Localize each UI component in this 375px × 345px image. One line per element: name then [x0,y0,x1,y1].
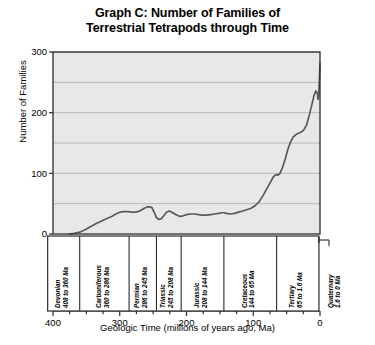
svg-text:Triassic: Triassic [159,284,166,308]
x-axis-ticks: 4003002001000 [45,311,323,328]
svg-text:300: 300 [112,317,128,328]
svg-text:Cretaceous: Cretaceous [241,273,248,308]
svg-text:300: 300 [31,46,47,57]
geologic-period-bands: Devonian408 to 360 MaCarboniferous360 to… [48,236,342,311]
svg-text:286 to 245 Ma: 286 to 245 Ma [141,267,148,309]
svg-text:200: 200 [179,317,195,328]
chart-canvas: 0100200300 4003002001000 Devonian408 to … [0,0,375,345]
chart-figure: Graph C: Number of Families of Terrestri… [0,0,375,345]
svg-text:400: 400 [45,317,61,328]
svg-text:144 to 65 Ma: 144 to 65 Ma [248,270,255,308]
svg-text:0: 0 [42,228,47,239]
svg-text:360 to 286 Ma: 360 to 286 Ma [103,267,110,308]
svg-text:200: 200 [31,107,47,118]
svg-text:0: 0 [317,317,322,328]
svg-text:100: 100 [245,317,261,328]
svg-text:65 to 1.6 Ma: 65 to 1.6 Ma [296,272,303,308]
y-axis-ticks: 0100200300 [31,46,53,239]
svg-text:Permian: Permian [133,283,140,308]
svg-text:1.6 to 0 Ma: 1.6 to 0 Ma [334,275,341,308]
svg-text:408 to 360 Ma: 408 to 360 Ma [62,267,69,309]
svg-text:245 to 208 Ma: 245 to 208 Ma [167,267,174,309]
svg-text:Jurassic: Jurassic [193,282,200,308]
svg-text:208 to 144 Ma: 208 to 144 Ma [201,267,208,309]
svg-text:100: 100 [31,168,47,179]
svg-text:Devonian: Devonian [54,280,61,308]
svg-text:Carboniferous: Carboniferous [95,264,102,308]
